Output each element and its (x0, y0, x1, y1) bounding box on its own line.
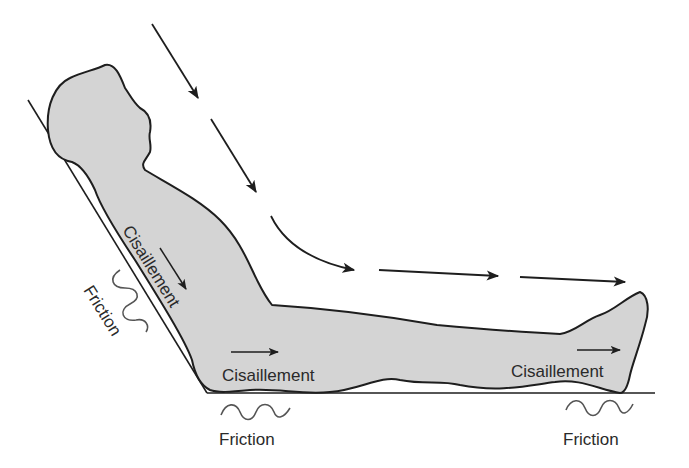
friction-label-buttocks: Friction (219, 430, 275, 449)
pressure-forces-diagram: Cisaillement Friction Cisaillement Cisai… (0, 0, 689, 468)
arrow-forward-2 (520, 277, 625, 282)
shear-label-buttocks: Cisaillement (222, 366, 315, 385)
arrow-curve (271, 216, 354, 270)
shear-label-heel: Cisaillement (511, 362, 604, 381)
friction-wave-buttocks-icon (221, 405, 290, 420)
arrow-down-2 (211, 119, 256, 192)
arrow-down-1 (152, 24, 198, 98)
friction-wave-heel-icon (566, 401, 633, 416)
arrow-forward-1 (379, 270, 498, 276)
friction-label-heel: Friction (563, 430, 619, 449)
friction-label-back: Friction (80, 282, 126, 339)
